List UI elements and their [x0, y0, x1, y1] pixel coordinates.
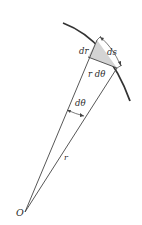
radial-line-right [25, 68, 117, 212]
label-r-dtheta: r dθ [88, 69, 105, 79]
ds-arrowhead-top [100, 37, 104, 41]
ds-extension-bottom [117, 65, 122, 68]
label-ds: ds [107, 47, 117, 57]
radial-line-left [25, 40, 97, 212]
label-dtheta: dθ [75, 98, 86, 108]
label-dr: dr [79, 46, 89, 56]
diagram-canvas: dr ds r dθ dθ r O [0, 0, 142, 225]
label-r: r [64, 153, 69, 162]
polar-diagram: dr ds r dθ dθ r O [0, 0, 142, 225]
dtheta-arrowhead-right [80, 113, 84, 117]
ds-arrowhead-bottom [118, 61, 121, 66]
label-origin: O [16, 207, 24, 218]
ds-extension-top [97, 36, 101, 40]
dtheta-arrowhead-left [67, 110, 71, 113]
